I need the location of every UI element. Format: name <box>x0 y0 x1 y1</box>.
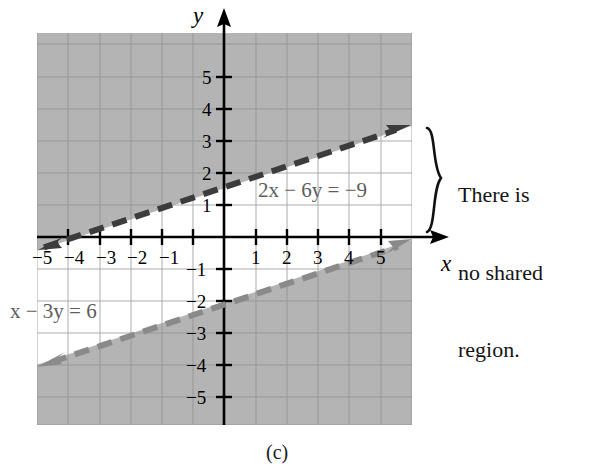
x-tick-label: −4 <box>64 248 84 267</box>
y-tick-label: 5 <box>202 68 212 87</box>
graph-figure: y x −5 −4 −3 −2 −1 1 2 3 4 5 1 2 3 4 5 −… <box>0 0 589 468</box>
y-tick-label: 3 <box>202 132 212 151</box>
annotation-line-2: no shared <box>458 260 543 286</box>
y-tick-label: −5 <box>186 388 206 407</box>
y-tick-label: 1 <box>202 196 212 215</box>
equation-label-upper: 2x − 6y = −9 <box>258 180 367 201</box>
y-tick-label: −2 <box>186 292 206 311</box>
y-tick-label: 2 <box>202 164 212 183</box>
x-tick-label: 1 <box>251 248 261 267</box>
x-tick-label: −1 <box>159 248 179 267</box>
x-tick-label: 4 <box>344 248 354 267</box>
x-axis-label: x <box>441 252 451 275</box>
annotation-line-1: There is <box>458 182 543 208</box>
y-tick-label: −3 <box>186 324 206 343</box>
y-tick-label: 4 <box>202 100 212 119</box>
y-tick-label: −1 <box>186 260 206 279</box>
x-tick-label: −5 <box>32 248 52 267</box>
x-tick-label: 3 <box>313 248 323 267</box>
annotation-note: There is no shared region. <box>458 131 543 414</box>
y-tick-label: −4 <box>186 356 206 375</box>
x-tick-label: −2 <box>127 248 147 267</box>
annotation-line-3: region. <box>458 337 543 363</box>
x-tick-label: 5 <box>376 248 386 267</box>
equation-label-lower: x − 3y = 6 <box>10 301 97 322</box>
x-tick-label: −3 <box>96 248 116 267</box>
brace-icon <box>427 128 441 232</box>
x-tick-label: 2 <box>282 248 292 267</box>
figure-caption: (c) <box>266 442 288 462</box>
y-axis-label: y <box>193 4 203 27</box>
